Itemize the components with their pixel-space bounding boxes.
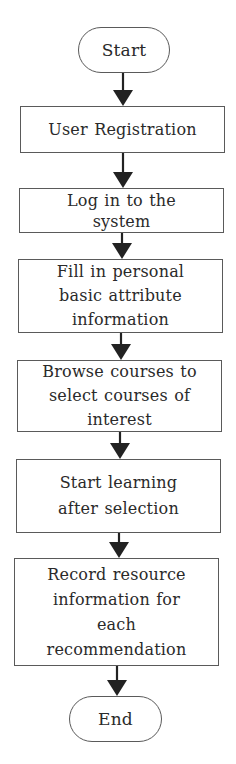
arrow-login-to-fill-info <box>112 233 132 259</box>
arrow-learn-to-record <box>109 533 129 558</box>
start-node: Start <box>78 27 170 73</box>
start-learning-label: Start learning after selection <box>58 470 179 522</box>
login-label: Log in to the system <box>67 190 176 232</box>
arrow-fill-info-to-browse <box>111 333 131 360</box>
record-info-label: Record resource information for each rec… <box>47 562 187 662</box>
end-label: End <box>98 707 133 732</box>
start-label: Start <box>102 38 147 63</box>
end-node: End <box>69 696 162 742</box>
browse-courses-label: Browse courses to select courses of inte… <box>42 360 197 432</box>
start-learning-node: Start learning after selection <box>16 459 221 533</box>
fill-info-label: Fill in personal basic attribute informa… <box>57 260 184 332</box>
arrow-browse-to-learn <box>110 432 130 459</box>
arrow-start-to-register <box>113 73 133 106</box>
arrow-record-to-end <box>107 666 127 696</box>
arrow-register-to-login <box>113 153 133 188</box>
user-registration-label: User Registration <box>48 117 197 142</box>
login-node: Log in to the system <box>19 188 224 233</box>
browse-courses-node: Browse courses to select courses of inte… <box>17 360 222 432</box>
fill-info-node: Fill in personal basic attribute informa… <box>18 259 223 333</box>
record-info-node: Record resource information for each rec… <box>14 558 219 666</box>
user-registration-node: User Registration <box>20 106 225 153</box>
